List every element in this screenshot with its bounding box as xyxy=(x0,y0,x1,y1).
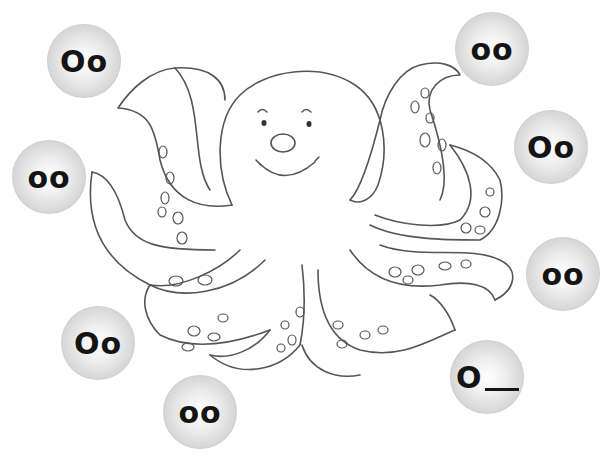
bubble-text: Oo xyxy=(60,44,108,79)
letter-bubble-bottom-left: Oo xyxy=(61,306,135,380)
bubble-text: Oo xyxy=(74,326,122,361)
letter-bubble-fill-in: O xyxy=(450,340,524,414)
blank-line xyxy=(485,388,519,391)
bubble-text: oo xyxy=(178,395,221,430)
letter-bubble-left: oo xyxy=(12,140,86,214)
letter-bubble-top-right: oo xyxy=(455,12,529,86)
letter-bubble-bottom: oo xyxy=(163,375,237,449)
letter-bubble-top-left: Oo xyxy=(47,24,121,98)
worksheet-canvas: Oo oo Oo oo oo Oo oo O xyxy=(0,0,611,459)
bubble-text: Oo xyxy=(527,130,575,165)
letter-bubble-right: Oo xyxy=(514,110,588,184)
bubble-text: oo xyxy=(27,160,70,195)
bubble-text: oo xyxy=(470,32,513,67)
bubble-text: oo xyxy=(541,257,584,292)
bubble-text: O xyxy=(456,360,483,395)
letter-bubble-right-lower: oo xyxy=(526,237,600,311)
